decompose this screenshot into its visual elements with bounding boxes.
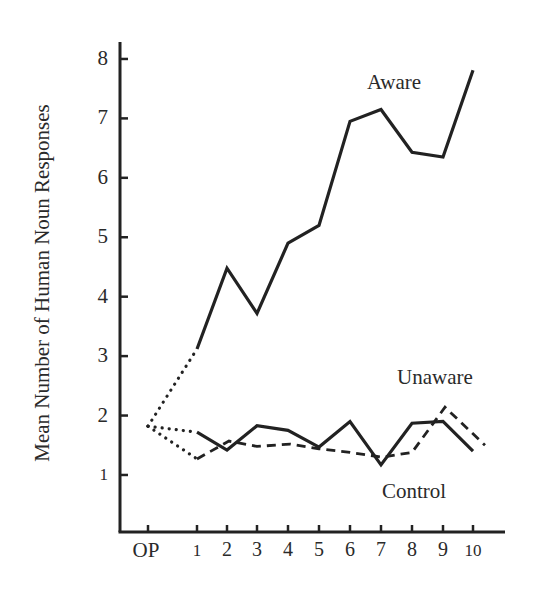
series-line-unaware <box>197 407 485 459</box>
op-connector-control <box>148 426 197 432</box>
series-label-aware: Aware <box>367 70 421 95</box>
y-tick-label: 7 <box>88 105 108 130</box>
x-tick-label: 10 <box>453 541 493 561</box>
axes <box>119 42 506 532</box>
series-label-control: Control <box>382 479 446 504</box>
x-tick-label: OP <box>126 538 166 563</box>
series-lines <box>148 70 485 465</box>
y-tick-label: 2 <box>88 403 108 428</box>
op-connector-aware <box>148 349 197 426</box>
y-tick-label: 4 <box>88 284 108 309</box>
series-line-aware <box>197 70 473 349</box>
y-tick-label: 8 <box>88 46 108 71</box>
y-axis-label: Mean Number of Human Noun Responses <box>30 104 55 462</box>
y-tick-label: 1 <box>88 465 108 485</box>
line-chart <box>0 0 540 597</box>
series-label-unaware: Unaware <box>397 365 473 390</box>
y-tick-label: 3 <box>88 343 108 368</box>
y-tick-label: 5 <box>88 224 108 249</box>
y-tick-label: 6 <box>88 165 108 190</box>
